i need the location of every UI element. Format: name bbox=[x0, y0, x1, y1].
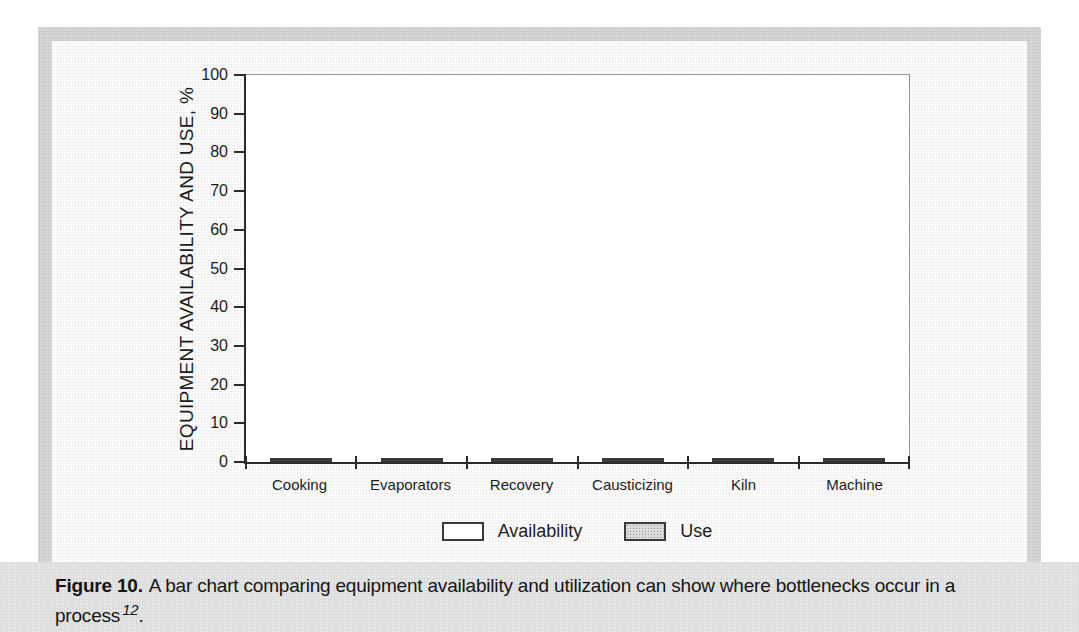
y-tick-40 bbox=[234, 306, 246, 308]
bar-group-machine bbox=[799, 75, 910, 462]
bar-pair-recovery bbox=[491, 458, 553, 462]
x-axis-tick-0 bbox=[245, 456, 247, 469]
y-tick-label-80: 80 bbox=[182, 144, 228, 160]
x-label-kiln: Kiln bbox=[688, 476, 799, 493]
x-axis-tick-1 bbox=[355, 456, 357, 469]
y-tick-label-60: 60 bbox=[182, 222, 228, 238]
bar-use-machine bbox=[853, 458, 885, 462]
bar-pair-kiln bbox=[712, 458, 774, 462]
y-tick-70 bbox=[234, 190, 246, 192]
legend-label-use: Use bbox=[680, 521, 712, 542]
bar-group-causticizing bbox=[578, 75, 689, 462]
y-tick-30 bbox=[234, 345, 246, 347]
figure-panel: EQUIPMENT AVAILABILITY AND USE, % 010203… bbox=[38, 27, 1041, 562]
x-label-cooking: Cooking bbox=[244, 476, 355, 493]
legend: AvailabilityUse bbox=[244, 521, 910, 542]
y-tick-60 bbox=[234, 229, 246, 231]
x-axis-tick-3 bbox=[577, 456, 579, 469]
legend-entry-use: Use bbox=[624, 521, 712, 542]
y-tick-label-90: 90 bbox=[182, 106, 228, 122]
bar-availability-recovery bbox=[491, 458, 523, 462]
bar-use-kiln bbox=[742, 458, 774, 462]
y-tick-label-50: 50 bbox=[182, 261, 228, 277]
y-tick-90 bbox=[234, 113, 246, 115]
legend-swatch-use bbox=[624, 522, 666, 541]
x-axis-tick-5 bbox=[798, 456, 800, 469]
page-background: EQUIPMENT AVAILABILITY AND USE, % 010203… bbox=[0, 0, 1079, 632]
y-tick-label-40: 40 bbox=[182, 299, 228, 315]
bar-group-recovery bbox=[467, 75, 578, 462]
x-label-evaporators: Evaporators bbox=[355, 476, 466, 493]
y-tick-label-30: 30 bbox=[182, 338, 228, 354]
legend-label-availability: Availability bbox=[498, 521, 583, 542]
plot-area: 0102030405060708090100 bbox=[244, 74, 910, 464]
bar-group-evaporators bbox=[357, 75, 468, 462]
y-tick-100 bbox=[234, 74, 246, 76]
bar-pair-evaporators bbox=[381, 458, 443, 462]
bar-group-kiln bbox=[688, 75, 799, 462]
bar-availability-evaporators bbox=[381, 458, 413, 462]
x-axis-tick-2 bbox=[466, 456, 468, 469]
x-label-machine: Machine bbox=[799, 476, 910, 493]
y-tick-label-100: 100 bbox=[182, 67, 228, 83]
figure-caption-band: Figure 10.A bar chart comparing equipmen… bbox=[0, 562, 1079, 632]
bar-pair-machine bbox=[823, 458, 885, 462]
bar-pair-cooking bbox=[270, 458, 332, 462]
x-label-recovery: Recovery bbox=[466, 476, 577, 493]
bar-use-recovery bbox=[521, 458, 553, 462]
y-tick-label-0: 0 bbox=[182, 454, 228, 470]
x-axis-tick-4 bbox=[687, 456, 689, 469]
caption-figure-number: Figure 10. bbox=[55, 575, 143, 596]
y-tick-10 bbox=[234, 422, 246, 424]
y-tick-label-70: 70 bbox=[182, 183, 228, 199]
y-tick-50 bbox=[234, 268, 246, 270]
chart: EQUIPMENT AVAILABILITY AND USE, % 010203… bbox=[244, 74, 910, 464]
y-tick-label-10: 10 bbox=[182, 415, 228, 431]
bar-availability-machine bbox=[823, 458, 855, 462]
y-tick-20 bbox=[234, 384, 246, 386]
caption-text: A bar chart comparing equipment availabi… bbox=[55, 575, 955, 626]
x-axis-labels: CookingEvaporatorsRecoveryCausticizingKi… bbox=[244, 476, 910, 493]
caption-period: . bbox=[138, 605, 143, 626]
legend-swatch-availability bbox=[442, 522, 484, 541]
bar-availability-kiln bbox=[712, 458, 744, 462]
bar-group-cooking bbox=[246, 75, 357, 462]
legend-entry-availability: Availability bbox=[442, 521, 583, 542]
y-tick-80 bbox=[234, 151, 246, 153]
bar-use-causticizing bbox=[632, 458, 664, 462]
bar-availability-causticizing bbox=[602, 458, 634, 462]
x-axis-tick-6 bbox=[908, 456, 910, 469]
bar-pair-causticizing bbox=[602, 458, 664, 462]
y-tick-label-20: 20 bbox=[182, 377, 228, 393]
caption-reference: 12 bbox=[122, 601, 138, 618]
bar-availability-cooking bbox=[270, 458, 302, 462]
bar-use-cooking bbox=[300, 458, 332, 462]
figure-caption: Figure 10.A bar chart comparing equipmen… bbox=[55, 571, 1003, 632]
bar-use-evaporators bbox=[411, 458, 443, 462]
x-label-causticizing: Causticizing bbox=[577, 476, 688, 493]
